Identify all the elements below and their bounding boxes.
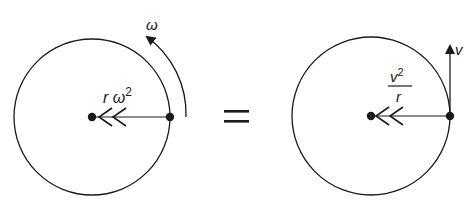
equals-top-bar <box>224 110 249 113</box>
centripetal-diagram: ω r ω2 = v v2 r <box>0 0 472 205</box>
fraction-numerator: v2 <box>390 66 404 85</box>
right-center-dot <box>367 112 375 120</box>
v-exponent: 2 <box>398 66 404 78</box>
r-omega-base: r ω <box>103 89 125 106</box>
left-panel: ω r ω2 <box>14 16 186 195</box>
velocity-label: v <box>455 41 464 58</box>
equals-bottom-bar <box>224 120 249 123</box>
left-center-dot <box>88 113 96 121</box>
angular-velocity-arc-arrow <box>147 37 186 117</box>
r-omega-exponent: 2 <box>125 85 132 99</box>
right-panel: v v2 r <box>292 37 464 195</box>
fraction-denominator: r <box>396 88 402 105</box>
r-omega-squared-label: r ω2 <box>103 85 132 106</box>
omega-label: ω <box>146 16 158 33</box>
left-edge-dot <box>166 113 174 121</box>
